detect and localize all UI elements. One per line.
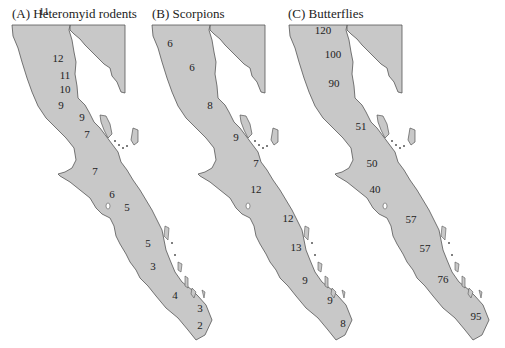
species-count-b: 9 (302, 274, 308, 286)
species-count-c: 95 (471, 310, 482, 322)
panel-c-title: (C) Butterflies (288, 6, 363, 22)
species-count-c: 90 (329, 77, 340, 89)
species-count-a: 2 (197, 319, 203, 331)
species-count-b: 8 (207, 99, 213, 111)
species-count-b: 12 (251, 183, 262, 195)
species-count-a: 3 (197, 302, 203, 314)
species-count-b: 9 (327, 294, 333, 306)
species-count-a: 6 (109, 188, 115, 200)
species-count-b: 7 (253, 157, 259, 169)
panel-a-title: (A) Heteromyid rodents (12, 6, 137, 22)
species-count-c: 120 (315, 24, 332, 36)
species-count-a: 11 (39, 5, 50, 17)
species-count-a: 4 (172, 289, 178, 301)
species-count-b: 8 (340, 317, 346, 329)
species-count-a: 3 (150, 260, 156, 272)
panel-b-title: (B) Scorpions (152, 6, 225, 22)
species-count-c: 50 (367, 157, 378, 169)
species-count-a: 9 (58, 99, 64, 111)
species-count-c: 57 (420, 242, 431, 254)
species-count-b: 13 (291, 241, 302, 253)
species-count-a: 12 (53, 52, 64, 64)
species-count-a: 9 (79, 111, 85, 123)
species-count-c: 40 (370, 183, 381, 195)
species-count-b: 6 (189, 61, 195, 73)
species-count-c: 57 (406, 213, 417, 225)
species-count-a: 7 (84, 128, 90, 140)
species-count-c: 100 (325, 48, 342, 60)
species-count-a: 7 (92, 165, 98, 177)
species-count-a: 5 (124, 201, 130, 213)
species-count-b: 6 (167, 37, 173, 49)
species-count-b: 12 (283, 212, 294, 224)
species-count-c: 51 (356, 120, 367, 132)
species-count-c: 76 (438, 273, 449, 285)
species-count-b: 9 (233, 131, 239, 143)
maps-canvas (0, 0, 505, 348)
species-count-a: 5 (145, 237, 151, 249)
species-count-a: 10 (60, 83, 71, 95)
species-count-a: 11 (60, 69, 71, 81)
